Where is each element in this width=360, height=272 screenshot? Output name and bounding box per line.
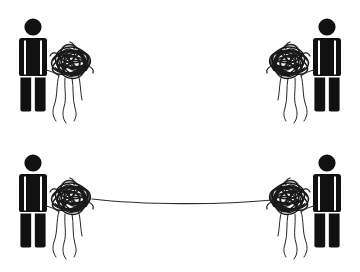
dangling-threads-icon — [278, 74, 307, 123]
tangled-string-icon[interactable] — [49, 41, 93, 84]
figure-top-left[interactable] — [19, 18, 93, 123]
figure-top-right[interactable] — [267, 18, 341, 123]
row-top — [19, 18, 341, 123]
figure-bottom-left[interactable] — [19, 154, 93, 259]
dangling-threads-icon — [53, 210, 82, 259]
diagram-svg — [0, 0, 360, 272]
person-pictogram-icon — [313, 18, 341, 111]
diagram-canvas — [0, 0, 360, 272]
tangled-string-icon[interactable] — [267, 41, 311, 84]
tangled-string-icon[interactable] — [267, 177, 311, 220]
person-pictogram-icon — [19, 18, 47, 111]
tangled-string-icon[interactable] — [49, 177, 93, 220]
person-pictogram-icon — [19, 154, 47, 247]
figure-bottom-right[interactable] — [267, 154, 341, 259]
person-pictogram-icon — [313, 154, 341, 247]
row-bottom — [19, 154, 341, 259]
connecting-line-icon[interactable] — [92, 199, 272, 204]
dangling-threads-icon — [278, 210, 307, 259]
dangling-threads-icon — [53, 74, 82, 123]
